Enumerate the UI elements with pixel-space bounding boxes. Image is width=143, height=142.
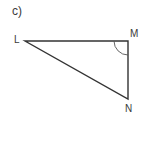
vertex-label-m: M xyxy=(130,29,138,39)
vertex-label-l: L xyxy=(14,35,20,45)
triangle-diagram xyxy=(0,0,143,142)
triangle-lmn xyxy=(25,41,128,99)
vertex-label-n: N xyxy=(125,104,132,114)
angle-arc-m xyxy=(114,41,128,55)
